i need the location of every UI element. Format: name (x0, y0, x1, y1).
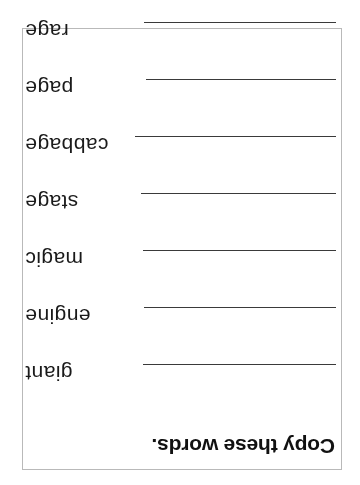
worksheet-title-block: Copy these words. (35, 425, 335, 459)
word-row: rage (23, 20, 341, 77)
word-row: magic (23, 248, 341, 305)
word-label: rage (25, 20, 69, 42)
word-label: page (25, 77, 73, 99)
writing-line[interactable] (135, 136, 336, 137)
writing-line[interactable] (144, 307, 336, 308)
word-label: engine (25, 305, 90, 327)
writing-line[interactable] (146, 79, 336, 80)
word-label: stage (25, 191, 78, 213)
writing-line[interactable] (141, 193, 336, 194)
word-row: cabbage (23, 134, 341, 191)
writing-line[interactable] (143, 364, 336, 365)
word-row: page (23, 77, 341, 134)
word-label: magic (25, 248, 83, 270)
worksheet-title: Copy these words. (152, 433, 335, 459)
worksheet-rotated-container: Copy these words. giant engine magic sta… (0, 0, 360, 485)
worksheet-frame: Copy these words. giant engine magic sta… (22, 28, 342, 470)
word-row: giant (23, 362, 341, 419)
word-rows-list: giant engine magic stage cabbage page (23, 20, 341, 419)
word-row: stage (23, 191, 341, 248)
word-row: engine (23, 305, 341, 362)
word-label: cabbage (25, 134, 108, 156)
writing-line[interactable] (143, 250, 336, 251)
word-label: giant (25, 362, 73, 384)
writing-line[interactable] (144, 22, 336, 23)
